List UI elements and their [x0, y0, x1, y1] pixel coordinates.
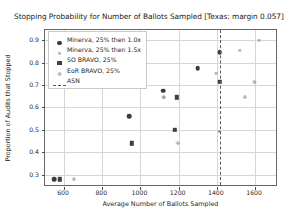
data-point: ▸ — [217, 127, 222, 132]
y-axis-tick-label: 0.8 — [13, 58, 39, 65]
data-point — [127, 114, 132, 119]
chart-figure: Stopping Probability for Number of Ballo… — [0, 0, 302, 224]
data-point: × — [237, 48, 242, 53]
y-axis-tick-label: 0.5 — [13, 125, 39, 132]
data-point — [130, 141, 134, 145]
y-axis-tick — [42, 130, 45, 131]
gridline-horizontal — [45, 152, 276, 153]
chart-title: Stopping Probability for Number of Ballo… — [14, 12, 298, 21]
data-point: × — [213, 70, 218, 75]
data-point: × — [256, 38, 261, 43]
legend-item-label: EoR BRAVO, 25% — [67, 67, 120, 74]
x-axis-tick-label: 1400 — [208, 189, 224, 196]
y-axis-tick — [42, 152, 45, 153]
x-axis-tick-label: 1600 — [246, 189, 262, 196]
data-point: ✙ — [161, 95, 165, 99]
legend-item-label: Minerva, 25% then 1.5x — [67, 46, 141, 53]
gridline-horizontal — [45, 175, 276, 176]
legend-item[interactable]: ASN — [52, 75, 141, 85]
y-axis-title: Proportion of Audits that Stopped — [3, 29, 13, 186]
data-point — [195, 66, 200, 71]
data-point: ✙ — [176, 141, 180, 145]
data-point — [175, 95, 179, 99]
gridline-vertical — [255, 30, 256, 185]
data-point — [52, 177, 57, 182]
y-axis-tick-label: 0.4 — [13, 148, 39, 155]
gridline-horizontal — [45, 130, 276, 131]
y-axis-tick-label: 0.9 — [13, 36, 39, 43]
y-axis-title-text: Proportion of Audits that Stopped — [4, 54, 12, 161]
y-axis-tick-label: 0.6 — [13, 103, 39, 110]
x-axis-title: Average Number of Ballots Sampled — [44, 200, 277, 208]
y-axis-tick — [42, 107, 45, 108]
legend-marker-dashed-line-icon — [52, 71, 67, 90]
legend-item-label: ASN — [67, 77, 80, 84]
x-axis-tick-label: 800 — [95, 189, 107, 196]
y-axis-tick — [42, 175, 45, 176]
y-axis-tick — [42, 63, 45, 64]
chart-legend: Minerva, 25% then 1.0x×Minerva, 25% then… — [48, 31, 147, 89]
y-axis-tick — [42, 85, 45, 86]
x-axis-tick-label: 1200 — [170, 189, 186, 196]
x-axis-tick-label: 600 — [57, 189, 69, 196]
y-axis-tick — [42, 40, 45, 41]
data-point — [161, 88, 166, 93]
gridline-horizontal — [45, 107, 276, 108]
legend-item-label: Minerva, 25% then 1.0x — [67, 36, 141, 43]
data-point: ✙ — [242, 95, 246, 99]
data-point — [173, 128, 177, 132]
x-axis-tick-label: 1000 — [132, 189, 148, 196]
gridline-vertical — [179, 30, 180, 185]
data-point: ✙ — [71, 177, 75, 181]
asn-reference-line — [220, 30, 221, 185]
data-point: ✙ — [252, 79, 256, 83]
data-point — [58, 177, 62, 181]
y-axis-tick-label: 0.7 — [13, 80, 39, 87]
y-axis-tick-label: 0.3 — [13, 170, 39, 177]
legend-item-label: SO BRAVO, 25% — [67, 56, 117, 63]
